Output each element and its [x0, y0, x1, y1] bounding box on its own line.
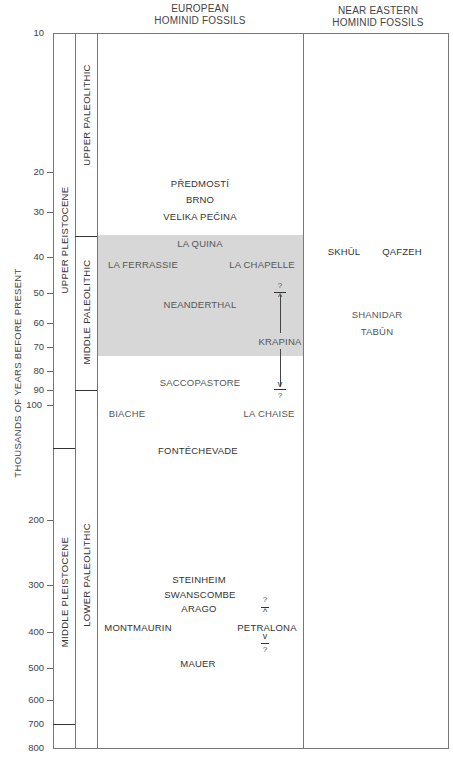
tick-50: 50	[14, 287, 44, 298]
frame-right	[448, 33, 449, 749]
frame-top	[53, 33, 449, 34]
tick-70: 70	[14, 341, 44, 352]
tick-200: 200	[14, 514, 44, 525]
krapina-upper-question: ?	[278, 281, 282, 290]
krapina-range-line-upper	[280, 295, 281, 333]
fossil-steinheim: STEINHEIM	[172, 574, 226, 585]
tickmark-40	[47, 257, 53, 258]
near-eastern-header-line2: HOMINID FOSSILS	[318, 17, 438, 29]
culture-upper-paleolithic: UPPER PALEOLITHIC	[81, 64, 92, 166]
fossil-arago: ARAGO	[181, 603, 216, 614]
tick-400: 400	[14, 626, 44, 637]
tickmark-70	[47, 347, 53, 348]
tickmark-600	[47, 700, 53, 701]
tickmark-90	[47, 390, 53, 391]
tick-40: 40	[14, 251, 44, 262]
tickmark-500	[47, 668, 53, 669]
tickmark-50	[47, 293, 53, 294]
fossil-saccopastore: SACCOPASTORE	[160, 377, 241, 388]
fossil-skhul: SKHŪL	[328, 246, 361, 257]
fossil-brno: BRNO	[186, 194, 214, 205]
fossil-biache: BIACHE	[109, 408, 146, 419]
fossil-la-chapelle: LA CHAPELLE	[229, 259, 295, 270]
european-near-eastern-divider	[303, 33, 304, 749]
fossil-predmosti: PŘEDMOSTÍ	[171, 178, 229, 189]
near-eastern-header-line1: NEAR EASTERN	[318, 5, 438, 17]
frame-left	[53, 33, 54, 749]
tick-300: 300	[14, 579, 44, 590]
tick-60: 60	[14, 317, 44, 328]
culture-middle-paleolithic: MIDDLE PALEOLITHIC	[81, 260, 92, 365]
krapina-lower-cap	[274, 389, 286, 390]
upper-middle-pleistocene-boundary	[53, 448, 75, 449]
middle-lower-paleolithic-boundary	[75, 390, 97, 391]
tick-90: 90	[14, 384, 44, 395]
tick-700: 700	[14, 718, 44, 729]
krapina-down-arrow-icon: v	[278, 380, 283, 389]
petralona-lower-question: ?	[263, 645, 267, 654]
near-eastern-header: NEAR EASTERN HOMINID FOSSILS	[318, 5, 438, 29]
tickmark-100	[47, 405, 53, 406]
fossil-fontechevade: FONTÉCHEVADE	[158, 445, 238, 456]
fossil-mauer: MAUER	[180, 658, 215, 669]
frame-bottom	[53, 748, 449, 749]
european-header-line1: EUROPEAN	[130, 3, 270, 15]
tickmark-60	[47, 323, 53, 324]
epoch-upper-pleistocene: UPPER PLEISTOCENE	[59, 187, 70, 294]
european-header: EUROPEAN HOMINID FOSSILS	[130, 3, 270, 27]
tickmark-400	[47, 632, 53, 633]
culture-fossil-divider	[97, 33, 98, 749]
tick-30: 30	[14, 206, 44, 217]
tickmark-300	[47, 585, 53, 586]
tick-100: 100	[12, 399, 42, 410]
fossil-neanderthal: NEANDERTHAL	[164, 299, 237, 310]
petralona-up-arrow-icon: ^	[263, 608, 267, 617]
fossil-la-chaise: LA CHAISE	[244, 408, 295, 419]
tick-20: 20	[14, 166, 44, 177]
tick-800: 800	[14, 742, 44, 753]
fossil-shanidar: SHANIDAR	[352, 309, 403, 320]
fossil-tabun: TABŪN	[361, 326, 394, 337]
tickmark-20	[47, 172, 53, 173]
culture-lower-paleolithic: LOWER PALEOLITHIC	[81, 523, 92, 627]
fossil-la-ferrassie: LA FERRASSIE	[108, 259, 178, 270]
fossil-swanscombe: SWANSCOMBE	[164, 589, 235, 600]
petralona-lower-cap	[261, 643, 269, 644]
middle-pleistocene-bottom-boundary	[53, 724, 75, 725]
tickmark-30	[47, 212, 53, 213]
fossil-la-quina: LA QUINA	[177, 238, 222, 249]
fossil-qafzeh: QAFZEH	[382, 246, 422, 257]
petralona-upper-question: ?	[263, 595, 267, 604]
tickmark-80	[47, 371, 53, 372]
tickmark-200	[47, 520, 53, 521]
fossil-velika-pecina: VELIKA PEČINA	[163, 211, 236, 222]
epoch-culture-divider	[75, 33, 76, 749]
epoch-middle-pleistocene: MIDDLE PLEISTOCENE	[59, 537, 70, 647]
fossil-krapina: KRAPINA	[258, 336, 301, 347]
tick-600: 600	[14, 694, 44, 705]
upper-middle-paleolithic-boundary	[75, 236, 97, 237]
tick-10: 10	[14, 27, 44, 38]
fossil-montmaurin: MONTMAURIN	[104, 622, 171, 633]
tick-500: 500	[14, 662, 44, 673]
krapina-lower-question: ?	[278, 391, 282, 400]
tick-80: 80	[14, 365, 44, 376]
european-header-line2: HOMINID FOSSILS	[130, 15, 270, 27]
petralona-down-arrow-icon: v	[263, 632, 268, 641]
